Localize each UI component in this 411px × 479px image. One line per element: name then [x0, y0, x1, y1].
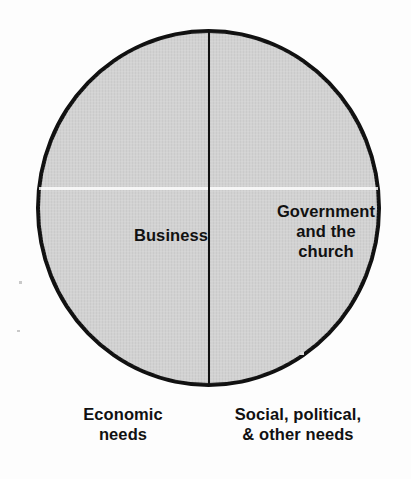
pie-chart: Business Government and the church [36, 29, 381, 387]
pie-chart-figure: Business Government and the church Econo… [0, 0, 411, 479]
pie-slice-label-business: Business [76, 225, 266, 245]
scan-speck [17, 330, 20, 332]
caption-economic-needs: Economic needs [36, 404, 210, 444]
caption-social-political-and-other-needs: Social, political, & other needs [204, 404, 392, 444]
pie-slice-label-government-and-the-church: Government and the church [246, 201, 406, 261]
scan-speck [19, 281, 22, 284]
pie-slice-divider [208, 30, 210, 386]
